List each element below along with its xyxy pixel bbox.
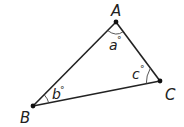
vertex-c-point (158, 79, 163, 84)
angle-b-degree: ° (60, 85, 65, 95)
vertex-a-point (114, 20, 119, 25)
triangle-diagram: A B C a ° b ° c ° (0, 0, 184, 127)
angle-arc-b (44, 95, 49, 103)
angle-arc-c (146, 68, 150, 84)
vertex-a-label: A (110, 2, 121, 20)
angle-c-degree: ° (140, 64, 145, 74)
vertex-c-label: C (165, 86, 176, 104)
vertex-b-label: B (20, 109, 30, 127)
angle-a-degree: ° (117, 35, 122, 45)
angle-c-label: c (132, 66, 140, 82)
triangle-figure: A B C a ° b ° c ° (0, 0, 184, 127)
vertex-b-point (31, 104, 36, 109)
side-ab (33, 22, 116, 106)
angle-arc-a (108, 31, 124, 35)
